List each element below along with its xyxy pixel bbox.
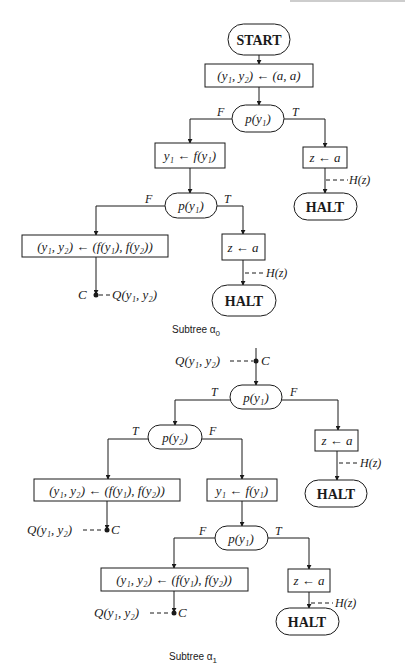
- cut-point-dot: [172, 611, 177, 616]
- test-node-3-text: p(y₁): [227, 531, 253, 546]
- pair-update-box-2: (y₁, y₂) ← (f(y₁), f(y₂)): [101, 568, 248, 591]
- true-branch-label: T: [224, 192, 232, 206]
- halt-label: HALT: [317, 487, 356, 502]
- test-node-1-text: p(y₁): [244, 111, 270, 126]
- z-assign-text-1: z ← a: [320, 433, 353, 448]
- init-assignment-text: (y₁, y₂) ← (a, a): [217, 68, 300, 83]
- subtree-alpha1: Q(y₁, y₂) C p(y₁) T F z ← a H(z) HALT p(…: [27, 348, 381, 665]
- cut-point-label: C: [111, 522, 120, 537]
- false-branch-label: F: [289, 385, 298, 399]
- cut-point-dot: [105, 528, 110, 533]
- entry-predicate-label: Q(y₁, y₂): [175, 353, 220, 368]
- cut-predicate-label: Q(y₁, y₂): [94, 605, 139, 620]
- true-branch-arrow: [108, 439, 148, 479]
- update-y1-box: y₁ ← f(y₁): [155, 143, 225, 168]
- update-y1-text: y₁ ← f(y₁): [162, 148, 216, 163]
- true-branch-label: T: [275, 524, 283, 538]
- subtree-alpha0-caption: Subtree α0: [172, 324, 221, 338]
- true-branch-arrow: [268, 538, 309, 569]
- test-node-2-text: p(y₂): [161, 430, 187, 445]
- false-branch-label: F: [216, 105, 225, 119]
- true-branch-arrow: [284, 119, 325, 147]
- false-branch-arrow: [282, 400, 338, 430]
- halt-node-1: HALT: [294, 193, 357, 220]
- halt-node-2: HALT: [276, 608, 339, 635]
- test-node-1: p(y₁): [232, 105, 284, 132]
- halt-predicate-label: H(z): [334, 596, 356, 610]
- test-node-1: p(y₁): [230, 385, 282, 409]
- update-y1-text: y₁ ← f(y₁): [214, 483, 268, 498]
- halt-predicate-label: H(z): [348, 173, 370, 187]
- start-label: START: [236, 33, 282, 48]
- false-branch-arrow: [96, 206, 165, 235]
- pair-update-text: (y₁, y₂) ← (f(y₁), f(y₂)): [37, 239, 153, 254]
- z-assign-text-2: z ← a: [226, 240, 259, 255]
- false-branch-arrow: [202, 439, 242, 479]
- test-node-1-text: p(y₁): [242, 390, 268, 405]
- test-node-2: p(y₂): [148, 425, 202, 449]
- cut-point-label: C: [178, 605, 187, 620]
- test-node-2: p(y₁): [165, 193, 217, 218]
- entry-cut-dot: [254, 359, 259, 364]
- cut-predicate-label: Q(y₁, y₂): [27, 522, 72, 537]
- true-branch-arrow: [175, 400, 230, 425]
- cut-predicate-label: Q(y₁, y₂): [112, 287, 157, 302]
- halt-node-1: HALT: [305, 480, 367, 507]
- false-branch-arrow: [174, 538, 215, 568]
- pair-update-box-1: (y₁, y₂) ← (f(y₁), f(y₂)): [34, 479, 180, 501]
- false-branch-label: F: [144, 192, 153, 206]
- test-node-3: p(y₁): [215, 526, 268, 550]
- z-assign-box-1: z ← a: [315, 430, 358, 451]
- cut-point-dot: [94, 293, 99, 298]
- halt-predicate-label: H(z): [359, 456, 381, 470]
- true-branch-arrow: [217, 206, 243, 234]
- z-assign-text-1: z ← a: [308, 150, 341, 165]
- false-branch-label: F: [198, 524, 207, 538]
- true-branch-label: T: [292, 105, 300, 119]
- start-node: START: [228, 24, 290, 55]
- true-branch-label: T: [211, 385, 219, 399]
- subtree-alpha0: START (y₁, y₂) ← (a, a) p(y₁) F T y₁ ← f…: [22, 24, 370, 338]
- halt-node-2: HALT: [212, 285, 276, 316]
- update-y1-box: y₁ ← f(y₁): [207, 479, 277, 501]
- pair-update-text-2: (y₁, y₂) ← (f(y₁), f(y₂)): [116, 572, 232, 587]
- subtree-alpha1-caption: Subtree α1: [169, 651, 218, 665]
- z-assign-box-2: z ← a: [222, 234, 265, 260]
- false-branch-arrow: [190, 119, 232, 143]
- halt-label: HALT: [225, 294, 264, 309]
- init-assignment-box: (y₁, y₂) ← (a, a): [205, 64, 313, 87]
- z-assign-text-2: z ← a: [292, 573, 325, 588]
- flowchart-canvas: START (y₁, y₂) ← (a, a) p(y₁) F T y₁ ← f…: [0, 0, 407, 669]
- false-branch-label: F: [208, 424, 217, 438]
- test-node-2-text: p(y₁): [177, 198, 203, 213]
- z-assign-box-2: z ← a: [288, 569, 330, 592]
- halt-label: HALT: [288, 615, 327, 630]
- pair-update-box: (y₁, y₂) ← (f(y₁), f(y₂)): [22, 235, 168, 257]
- z-assign-box-1: z ← a: [303, 147, 347, 168]
- halt-label: HALT: [306, 200, 345, 215]
- cut-point-label: C: [78, 287, 87, 302]
- true-branch-label: T: [132, 424, 140, 438]
- entry-cut-label: C: [261, 353, 270, 368]
- pair-update-text-1: (y₁, y₂) ← (f(y₁), f(y₂)): [49, 483, 165, 498]
- halt-predicate-label: H(z): [265, 266, 287, 280]
